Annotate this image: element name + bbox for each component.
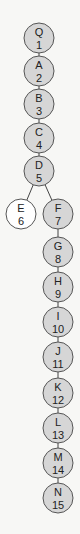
node-letter: B bbox=[35, 92, 42, 104]
node-number: 8 bbox=[55, 253, 61, 265]
node-number: 14 bbox=[52, 464, 64, 476]
node-number: 11 bbox=[52, 358, 63, 370]
node-I: I10 bbox=[43, 307, 73, 337]
node-number: 2 bbox=[36, 72, 42, 84]
node-M: M14 bbox=[43, 448, 73, 478]
node-B: B3 bbox=[24, 89, 54, 119]
node-number: 7 bbox=[55, 215, 61, 227]
node-G: G8 bbox=[43, 237, 73, 267]
node-K: K12 bbox=[43, 378, 73, 408]
node-number: 9 bbox=[55, 288, 61, 300]
tree-diagram: Q1A2B3C4D5E6F7G8H9I10J11K12L13M14N15 bbox=[0, 0, 80, 534]
node-F: F7 bbox=[43, 199, 73, 229]
node-letter: I bbox=[56, 310, 59, 322]
node-letter: M bbox=[53, 451, 62, 463]
nodes: Q1A2B3C4D5E6F7G8H9I10J11K12L13M14N15 bbox=[6, 23, 73, 513]
node-number: 13 bbox=[52, 429, 64, 441]
node-C: C4 bbox=[24, 123, 54, 153]
node-letter: H bbox=[54, 275, 62, 287]
node-letter: E bbox=[17, 202, 24, 214]
node-E: E6 bbox=[6, 199, 36, 229]
node-letter: Q bbox=[35, 26, 44, 38]
node-D: D5 bbox=[24, 156, 54, 186]
node-number: 4 bbox=[36, 139, 42, 151]
node-Q: Q1 bbox=[24, 23, 54, 53]
node-letter: F bbox=[55, 202, 62, 214]
node-A: A2 bbox=[24, 56, 54, 86]
node-letter: J bbox=[55, 345, 61, 357]
node-J: J11 bbox=[43, 342, 73, 372]
node-letter: N bbox=[54, 486, 62, 498]
node-H: H9 bbox=[43, 272, 73, 302]
node-letter: L bbox=[55, 416, 61, 428]
node-letter: D bbox=[35, 159, 43, 171]
node-L: L13 bbox=[43, 413, 73, 443]
node-number: 5 bbox=[36, 172, 42, 184]
node-letter: G bbox=[54, 240, 63, 252]
node-number: 6 bbox=[18, 215, 24, 227]
node-number: 3 bbox=[36, 105, 42, 117]
node-number: 15 bbox=[52, 499, 64, 511]
node-number: 10 bbox=[52, 323, 64, 335]
node-letter: A bbox=[35, 59, 43, 71]
node-letter: C bbox=[35, 126, 43, 138]
node-letter: K bbox=[54, 381, 62, 393]
node-number: 12 bbox=[52, 394, 64, 406]
node-N: N15 bbox=[43, 483, 73, 513]
node-number: 1 bbox=[36, 39, 42, 51]
